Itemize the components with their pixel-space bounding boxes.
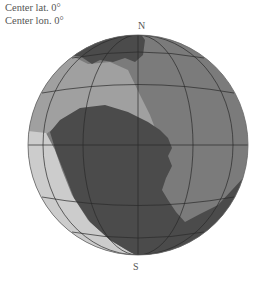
- globe-map[interactable]: [0, 0, 255, 282]
- globe-surface: [0, 0, 255, 282]
